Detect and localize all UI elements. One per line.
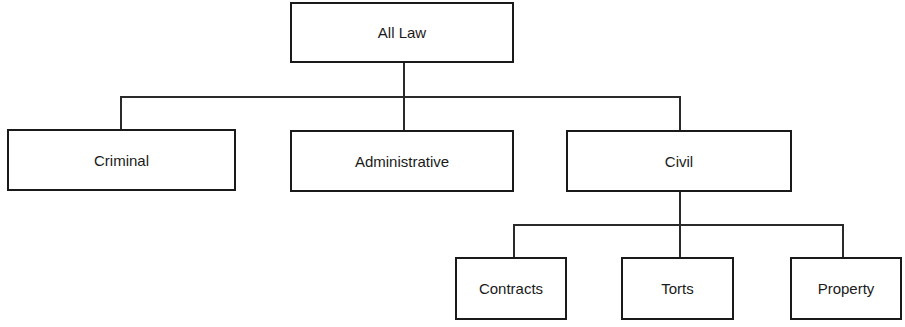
connector-to-contracts [513, 224, 515, 257]
node-civil: Civil [566, 130, 792, 192]
node-property: Property [790, 257, 902, 320]
node-torts: Torts [621, 257, 734, 320]
connector-to-administrative [403, 96, 405, 130]
node-label: Contracts [479, 280, 543, 297]
node-all-law: All Law [290, 2, 514, 63]
node-label: Civil [665, 153, 693, 170]
connector-level1-bar [120, 96, 680, 98]
node-label: Administrative [355, 153, 449, 170]
connector-civil-down [679, 192, 681, 225]
node-label: Torts [661, 280, 694, 297]
connector-to-property [842, 224, 844, 257]
connector-to-civil [679, 96, 681, 130]
connector-root-down [403, 62, 405, 97]
node-contracts: Contracts [455, 257, 567, 320]
connector-to-criminal [120, 96, 122, 130]
connector-level2-bar [513, 224, 843, 226]
node-criminal: Criminal [7, 129, 236, 191]
node-label: Property [818, 280, 875, 297]
node-administrative: Administrative [290, 130, 514, 192]
node-label: All Law [378, 24, 426, 41]
connector-to-torts [679, 224, 681, 257]
node-label: Criminal [94, 152, 149, 169]
